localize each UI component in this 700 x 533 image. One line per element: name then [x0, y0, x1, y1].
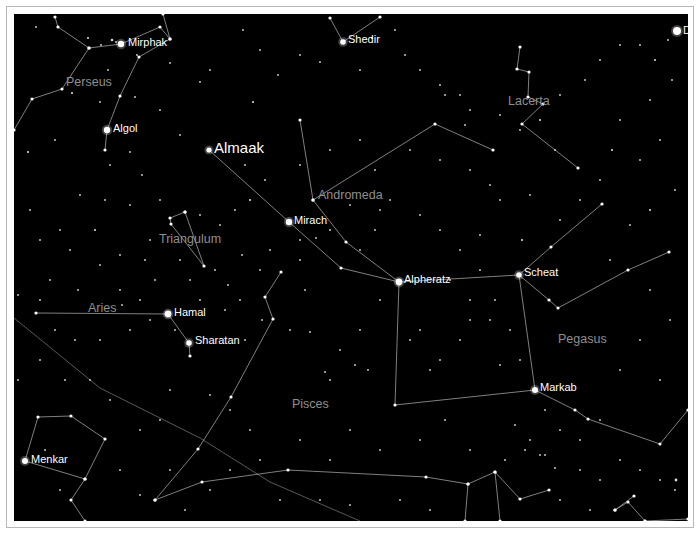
star[interactable]: [299, 164, 301, 166]
star[interactable]: [611, 149, 613, 151]
star[interactable]: [584, 79, 586, 81]
star[interactable]: [315, 237, 317, 239]
star[interactable]: [137, 55, 140, 58]
star[interactable]: [59, 489, 61, 491]
star[interactable]: [29, 209, 31, 211]
star[interactable]: [77, 289, 79, 291]
star-dot[interactable]: [532, 387, 538, 393]
star[interactable]: [409, 149, 411, 151]
star[interactable]: [264, 179, 266, 181]
star[interactable]: [479, 269, 481, 271]
star[interactable]: [299, 259, 301, 261]
star[interactable]: [100, 44, 102, 46]
star[interactable]: [39, 299, 41, 301]
star[interactable]: [69, 414, 72, 417]
star[interactable]: [136, 54, 138, 56]
star[interactable]: [39, 239, 41, 241]
star[interactable]: [202, 264, 205, 267]
star[interactable]: [444, 419, 446, 421]
star[interactable]: [339, 349, 341, 351]
star[interactable]: [554, 149, 556, 151]
star[interactable]: [394, 29, 396, 31]
star[interactable]: [109, 164, 111, 166]
star[interactable]: [56, 25, 59, 28]
star[interactable]: [17, 294, 19, 296]
star[interactable]: [579, 439, 581, 441]
star-dot[interactable]: [118, 41, 124, 47]
star[interactable]: [134, 96, 136, 98]
star[interactable]: [184, 509, 186, 511]
star[interactable]: [515, 67, 518, 70]
star[interactable]: [639, 44, 641, 46]
star[interactable]: [649, 289, 651, 291]
star[interactable]: [299, 439, 301, 441]
star[interactable]: [519, 129, 521, 131]
star[interactable]: [576, 166, 579, 169]
star[interactable]: [529, 439, 531, 441]
star[interactable]: [328, 16, 331, 19]
star[interactable]: [169, 469, 171, 471]
star[interactable]: [579, 199, 581, 201]
named-star-hamal[interactable]: Hamal: [163, 306, 206, 319]
star[interactable]: [599, 59, 601, 61]
star[interactable]: [249, 429, 251, 431]
star[interactable]: [499, 114, 501, 116]
star[interactable]: [89, 379, 91, 381]
star[interactable]: [393, 403, 396, 406]
star[interactable]: [34, 311, 37, 314]
star[interactable]: [654, 59, 656, 61]
star[interactable]: [119, 469, 121, 471]
star[interactable]: [349, 429, 351, 431]
star[interactable]: [169, 389, 171, 391]
star[interactable]: [367, 369, 369, 371]
star[interactable]: [329, 379, 331, 381]
named-star-d[interactable]: D: [671, 24, 688, 37]
star[interactable]: [99, 101, 101, 103]
star[interactable]: [59, 229, 61, 231]
star[interactable]: [149, 239, 151, 241]
star[interactable]: [69, 249, 71, 251]
star[interactable]: [466, 482, 469, 485]
star[interactable]: [269, 249, 271, 251]
star[interactable]: [109, 399, 111, 401]
star[interactable]: [573, 408, 576, 411]
star[interactable]: [544, 454, 546, 456]
star[interactable]: [69, 498, 72, 501]
star[interactable]: [224, 309, 226, 311]
star[interactable]: [209, 394, 211, 396]
star[interactable]: [379, 299, 381, 301]
star[interactable]: [519, 359, 521, 361]
star[interactable]: [409, 339, 411, 341]
star[interactable]: [586, 417, 589, 420]
star[interactable]: [399, 499, 401, 501]
star[interactable]: [118, 94, 121, 97]
star[interactable]: [279, 499, 281, 501]
star[interactable]: [439, 229, 441, 231]
star-dot[interactable]: [104, 127, 110, 133]
star[interactable]: [241, 254, 243, 256]
star[interactable]: [639, 339, 641, 341]
star[interactable]: [261, 319, 263, 321]
star[interactable]: [79, 194, 81, 196]
star[interactable]: [667, 39, 669, 41]
star[interactable]: [349, 504, 351, 506]
star[interactable]: [469, 169, 471, 171]
star[interactable]: [547, 298, 550, 301]
star[interactable]: [671, 79, 673, 81]
star[interactable]: [619, 44, 621, 46]
star[interactable]: [199, 81, 201, 83]
star[interactable]: [619, 119, 621, 121]
star[interactable]: [354, 364, 356, 366]
star[interactable]: [499, 364, 501, 366]
star[interactable]: [518, 45, 521, 48]
star[interactable]: [279, 270, 282, 273]
star[interactable]: [14, 128, 16, 131]
star[interactable]: [319, 499, 321, 501]
star[interactable]: [119, 254, 121, 256]
star[interactable]: [179, 259, 181, 261]
star[interactable]: [619, 369, 621, 371]
star[interactable]: [494, 299, 496, 301]
star[interactable]: [209, 489, 211, 491]
star[interactable]: [196, 447, 199, 450]
star[interactable]: [419, 329, 421, 331]
